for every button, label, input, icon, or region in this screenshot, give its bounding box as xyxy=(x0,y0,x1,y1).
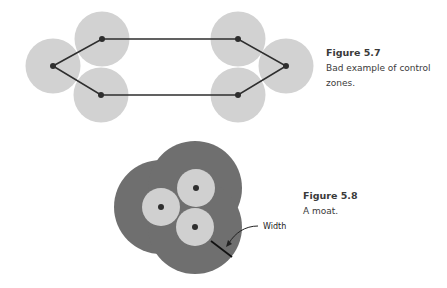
node-top-left xyxy=(99,36,105,42)
control-zones xyxy=(26,12,314,123)
width-label: Width xyxy=(263,222,286,231)
figure-5-8-caption: Figure 5.8 A moat. xyxy=(303,190,358,216)
node-bottom-right xyxy=(235,92,241,98)
figure-5-7-caption-line-2: zones. xyxy=(326,78,355,88)
figure-5-7-title: Figure 5.7 xyxy=(326,47,381,58)
node-left xyxy=(50,63,56,69)
node-bottom-left xyxy=(98,92,104,98)
figure-5-7-caption: Figure 5.7 Bad example of control zones. xyxy=(326,47,431,88)
node-inner-bottom xyxy=(192,224,198,230)
figure-canvas: Figure 5.7 Bad example of control zones.… xyxy=(0,0,447,288)
figure-5-8-caption-line-1: A moat. xyxy=(303,206,338,216)
figure-5-8-diagram: Width xyxy=(114,141,286,274)
node-inner-top xyxy=(193,185,199,191)
node-inner-left xyxy=(158,204,164,210)
figure-5-8-title: Figure 5.8 xyxy=(303,190,358,201)
figure-5-7-caption-line-1: Bad example of control xyxy=(326,63,431,73)
node-right xyxy=(283,63,289,69)
figure-5-7-diagram xyxy=(26,12,314,123)
node-top-right xyxy=(235,36,241,42)
